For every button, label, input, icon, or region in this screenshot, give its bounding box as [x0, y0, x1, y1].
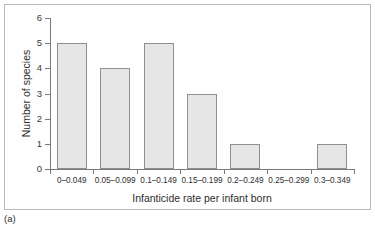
bar [230, 144, 260, 169]
x-axis-tick [311, 169, 312, 174]
x-axis-tick [224, 169, 225, 174]
plot-area: 0123456 0–0.0490.05–0.0990.1–0.1490.15–0… [50, 18, 354, 169]
bar [187, 94, 217, 170]
x-axis-category-label: 0.15–0.199 [182, 177, 223, 185]
x-axis-category-label: 0.3–0.349 [314, 177, 350, 185]
x-axis-tick [180, 169, 181, 174]
x-axis-tick [50, 169, 51, 174]
x-axis-category-label: 0.25–0.299 [268, 177, 309, 185]
x-axis-category-label: 0–0.049 [57, 177, 87, 185]
x-axis-tick [267, 169, 268, 174]
x-axis-line [50, 169, 354, 170]
y-axis-title: Number of species [21, 18, 37, 169]
bar [317, 144, 347, 169]
y-axis-tick-label: 3 [37, 89, 42, 99]
x-axis-tick [137, 169, 138, 174]
x-axis-tick [354, 169, 355, 174]
y-axis-line [50, 18, 51, 169]
y-axis-tick-label: 4 [37, 64, 42, 74]
y-axis-tick-label: 1 [37, 139, 42, 149]
y-axis-tick [45, 18, 50, 19]
x-axis-tick [93, 169, 94, 174]
y-axis-tick-label: 2 [37, 114, 42, 124]
y-axis-tick [45, 144, 50, 145]
y-axis-tick-label: 0 [37, 164, 42, 174]
figure-panel: 0123456 0–0.0490.05–0.0990.1–0.1490.15–0… [0, 0, 375, 229]
y-axis-tick [45, 119, 50, 120]
bar [100, 68, 130, 169]
chart-frame: 0123456 0–0.0490.05–0.0990.1–0.1490.15–0… [4, 4, 371, 210]
x-axis-category-label: 0.1–0.149 [140, 177, 176, 185]
y-axis-tick [45, 43, 50, 44]
x-axis-category-label: 0.2–0.249 [227, 177, 263, 185]
bar [144, 43, 174, 169]
y-axis-tick-label: 5 [37, 38, 42, 48]
x-axis-title: Infanticide rate per infant born [50, 193, 354, 204]
y-axis-tick [45, 68, 50, 69]
bar [57, 43, 87, 169]
figure-caption: (a) [4, 214, 16, 224]
y-axis-tick [45, 94, 50, 95]
x-axis-category-label: 0.05–0.099 [95, 177, 136, 185]
y-axis-tick-label: 6 [37, 13, 42, 23]
